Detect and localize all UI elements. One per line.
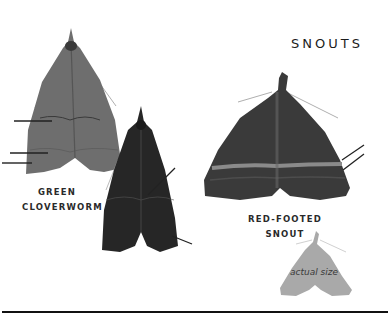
red-footed-snout-label: RED-FOOTED SNOUT (248, 212, 322, 242)
red-footed-snout-arrows (342, 145, 364, 170)
red-footed-snout-label-line1: RED-FOOTED (248, 212, 322, 227)
actual-size-label: actual size (290, 267, 338, 277)
field-guide-page: SNOUTS GREEN CLOVERWORM RED-FOOTED SNOUT… (0, 0, 389, 328)
page-divider-rule (2, 311, 388, 313)
green-cloverworm-label-line2: CLOVERWORM (22, 200, 92, 215)
section-title: SNOUTS (291, 36, 363, 51)
red-footed-snout-label-line2: SNOUT (248, 227, 322, 242)
green-cloverworm-label: GREEN CLOVERWORM (22, 185, 92, 215)
red-footed-snout-moth (204, 72, 350, 200)
green-cloverworm-label-line1: GREEN (22, 185, 92, 200)
green-cloverworm-light-moth (26, 28, 122, 174)
